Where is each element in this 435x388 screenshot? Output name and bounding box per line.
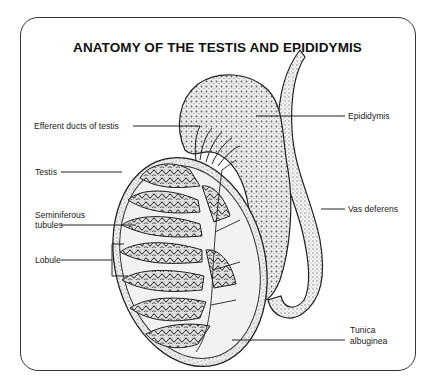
label-seminiferous-line1: Seminiferous: [35, 210, 85, 220]
label-epididymis: Epididymis: [348, 111, 390, 121]
label-tunica-line1: Tunica: [350, 325, 375, 335]
label-seminiferous-line2: tubules: [35, 220, 63, 230]
label-testis: Testis: [35, 167, 57, 177]
label-tunica-line2: albuginea: [350, 336, 387, 346]
label-lobule: Lobule: [35, 255, 61, 265]
label-efferent-ducts: Efferent ducts of testis: [34, 121, 119, 131]
label-vas-deferens: Vas deferens: [348, 204, 398, 214]
